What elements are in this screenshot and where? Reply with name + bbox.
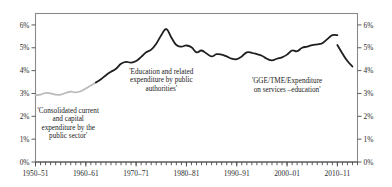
x-axis-tick-label: 2000–01 (274, 169, 300, 178)
y-axis-left-tick-label: 2% (20, 112, 30, 121)
y-axis-right-ticks (358, 25, 362, 162)
x-axis-tick-label: 1960–61 (73, 169, 99, 178)
y-axis-left-ticks (32, 25, 36, 162)
y-axis-right-tick-label: 3% (364, 89, 374, 98)
annotation-line: 'GGE/TME/Expenditure (252, 77, 322, 85)
y-axis-left-tick-label: 5% (20, 43, 30, 52)
y-axis-right-tick-label: 4% (364, 66, 374, 75)
y-axis-left-tick-label: 4% (20, 66, 30, 75)
y-axis-right-tick-labels: 0%1%2%3%4%5%6% (364, 21, 374, 167)
chart-annotations: 'Consolidated currentand capitalexpendit… (38, 68, 323, 140)
x-axis-tick-label: 1990–91 (224, 169, 250, 178)
consolidated-expenditure-label: 'Consolidated currentand capitalexpendit… (38, 107, 99, 140)
y-axis-left-tick-labels: 0%1%2%3%4%5%6% (20, 21, 30, 167)
annotation-line: authorities' (145, 85, 177, 93)
annotation-line: and capital (53, 115, 84, 123)
annotation-line: on services –education' (254, 86, 321, 94)
series-line-consolidated-expenditure (36, 83, 96, 96)
series-line-gge-tme-expenditure (337, 45, 352, 66)
chart-canvas: 0%1%2%3%4%5%6% 0%1%2%3%4%5%6% 1950–51196… (0, 0, 392, 187)
education-expenditure-chart: 0%1%2%3%4%5%6% 0%1%2%3%4%5%6% 1950–51196… (0, 0, 392, 187)
education-related-expenditure-label: 'Education and relatedexpenditure by pub… (129, 68, 193, 93)
x-axis-tick-label: 1950–51 (23, 169, 49, 178)
gge-tme-expenditure-label: 'GGE/TME/Expenditureon services –educati… (252, 77, 322, 93)
y-axis-left-tick-label: 3% (20, 89, 30, 98)
x-axis-tick-labels: 1950–511960–611970–711980–811990–912000–… (23, 169, 351, 178)
annotation-line: public sector' (49, 132, 87, 140)
y-axis-right-tick-label: 5% (364, 43, 374, 52)
y-axis-right-tick-label: 1% (364, 135, 374, 144)
x-axis-tick-label: 2010–11 (325, 169, 351, 178)
annotation-line: 'Consolidated current (38, 107, 99, 115)
y-axis-right-tick-label: 0% (364, 158, 374, 167)
x-axis-tick-label: 1980–81 (174, 169, 200, 178)
y-axis-right-tick-label: 2% (364, 112, 374, 121)
annotation-line: expenditure by the (41, 124, 95, 132)
y-axis-right-tick-label: 6% (364, 21, 374, 30)
annotation-line: expenditure by public (130, 76, 193, 84)
annotation-line: 'Education and related (129, 68, 193, 76)
y-axis-left-tick-label: 1% (20, 135, 30, 144)
y-axis-left-tick-label: 0% (20, 158, 30, 167)
y-axis-left-tick-label: 6% (20, 21, 30, 30)
x-axis-tick-label: 1970–71 (123, 169, 149, 178)
